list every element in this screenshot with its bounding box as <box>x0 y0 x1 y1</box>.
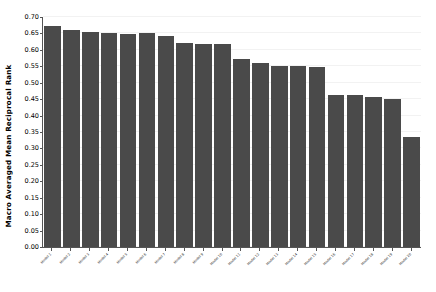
x-tick-mark <box>108 248 109 251</box>
x-tick-label: Model 2 <box>60 253 72 265</box>
bar <box>252 63 269 247</box>
x-tick-mark <box>316 248 317 251</box>
x-tick-label: Model 8 <box>173 253 185 265</box>
bar <box>403 137 420 247</box>
x-tick-label: Model 18 <box>361 253 374 266</box>
bar <box>309 67 326 247</box>
x-tick-label: Model 14 <box>285 253 298 266</box>
x-tick-mark <box>184 248 185 251</box>
x-tick-label: Model 4 <box>98 253 110 265</box>
x-tick-label: Model 1 <box>41 253 53 265</box>
y-tick-label: 0.25 <box>25 162 39 169</box>
y-tick-label: 0.35 <box>25 129 39 136</box>
y-tick-label: 0.45 <box>25 96 39 103</box>
x-tick-label: Model 5 <box>117 253 129 265</box>
bar <box>290 66 307 247</box>
x-axis-labels: Model 1Model 2Model 3Model 4Model 5Model… <box>42 248 420 292</box>
x-tick-mark <box>222 248 223 251</box>
x-tick-label: Model 9 <box>192 253 204 265</box>
bar <box>384 99 401 247</box>
y-tick-label: 0.15 <box>25 194 39 201</box>
bar <box>158 36 175 247</box>
x-tick-label: Model 15 <box>304 253 317 266</box>
bar <box>101 33 118 247</box>
x-tick-label: Model 7 <box>154 253 166 265</box>
y-tick-label: 0.30 <box>25 145 39 152</box>
bar <box>328 95 345 247</box>
x-tick-label: Model 10 <box>210 253 223 266</box>
x-tick-label: Model 13 <box>266 253 279 266</box>
y-tick-label: 0.40 <box>25 112 39 119</box>
bar <box>176 43 193 247</box>
bar <box>214 44 231 247</box>
x-tick-mark <box>146 248 147 251</box>
x-tick-label: Model 6 <box>135 253 147 265</box>
x-tick-label: Model 20 <box>399 253 412 266</box>
bar <box>139 33 156 247</box>
y-tick-label: 0.60 <box>25 47 39 54</box>
x-tick-label: Model 19 <box>380 253 393 266</box>
x-tick-mark <box>354 248 355 251</box>
y-tick-label: 0.00 <box>25 244 39 251</box>
x-tick-mark <box>165 248 166 251</box>
bar <box>63 30 80 247</box>
y-tick-label: 0.20 <box>25 178 39 185</box>
x-tick-label: Model 17 <box>342 253 355 266</box>
x-tick-mark <box>259 248 260 251</box>
bar-chart-figure: Macro Averaged Mean Reciprocal Rank 0.00… <box>0 0 436 292</box>
plot-area: 0.000.050.100.150.200.250.300.350.400.45… <box>42 17 421 248</box>
bar <box>195 44 212 247</box>
bar <box>347 95 364 247</box>
y-tick-label: 0.50 <box>25 79 39 86</box>
y-tick-label: 0.65 <box>25 30 39 37</box>
bar <box>233 59 250 247</box>
y-tick-label: 0.05 <box>25 227 39 234</box>
bar <box>271 66 288 247</box>
x-tick-mark <box>240 248 241 251</box>
y-tick-label: 0.55 <box>25 63 39 70</box>
x-tick-label: Model 16 <box>323 253 336 266</box>
x-tick-label: Model 11 <box>228 253 241 266</box>
x-tick-mark <box>278 248 279 251</box>
x-tick-mark <box>51 248 52 251</box>
bar <box>82 32 99 247</box>
bar <box>120 34 137 247</box>
x-tick-mark <box>203 248 204 251</box>
x-tick-mark <box>373 248 374 251</box>
x-tick-label: Model 12 <box>247 253 260 266</box>
x-tick-mark <box>297 248 298 251</box>
bar <box>365 97 382 247</box>
bar-series <box>43 17 421 247</box>
y-tick-label: 0.70 <box>25 14 39 21</box>
x-tick-mark <box>392 248 393 251</box>
x-tick-mark <box>70 248 71 251</box>
x-tick-label: Model 3 <box>79 253 91 265</box>
y-tick-label: 0.10 <box>25 211 39 218</box>
y-axis-title: Macro Averaged Mean Reciprocal Rank <box>0 0 16 292</box>
bar <box>44 26 61 247</box>
x-tick-mark <box>127 248 128 251</box>
x-tick-mark <box>335 248 336 251</box>
x-tick-mark <box>89 248 90 251</box>
x-tick-mark <box>411 248 412 251</box>
